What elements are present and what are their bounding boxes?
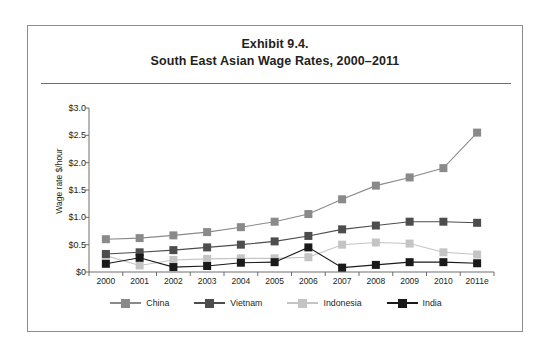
- x-axis-tick-label: 2003: [198, 276, 217, 286]
- x-axis-tick-label: 2004: [231, 276, 250, 286]
- chart-series: [102, 129, 481, 272]
- x-axis-tick-label: 2005: [265, 276, 284, 286]
- x-axis-tick-label: 2009: [400, 276, 419, 286]
- x-axis-tick-label: 2006: [299, 276, 318, 286]
- series-vietnam: [102, 218, 481, 258]
- legend-swatch-icon: [298, 299, 307, 308]
- legend-label: China: [146, 298, 169, 308]
- series-china: [102, 129, 481, 244]
- legend-label: Vietnam: [230, 298, 262, 308]
- legend-item-india[interactable]: India: [387, 298, 442, 308]
- figure-frame: Exhibit 9.4. South East Asian Wage Rates…: [27, 25, 523, 332]
- legend-line-icon: [214, 302, 225, 303]
- legend-swatch-icon: [398, 299, 407, 308]
- chart-axes: [85, 108, 494, 276]
- legend-item-indonesia[interactable]: Indonesia: [287, 298, 361, 308]
- series-indonesia: [102, 238, 481, 269]
- legend-line-icon: [110, 302, 121, 303]
- x-axis-tick-label: 2008: [366, 276, 385, 286]
- legend-line-icon: [130, 302, 141, 303]
- legend-line-icon: [387, 302, 398, 303]
- chart-legend: ChinaVietnamIndonesiaIndia: [28, 298, 524, 308]
- legend-line-icon: [307, 302, 318, 303]
- x-axis-tick-label: 2001: [130, 276, 149, 286]
- x-axis-tick-label: 2010: [434, 276, 453, 286]
- legend-line-icon: [287, 302, 298, 303]
- x-axis-tick-labels: 2000200120022003200420052006200720082009…: [28, 276, 524, 292]
- chart-plot-area: Wage rate $/hour $0$0.5$1.0$1.5$2.0$2.5$…: [28, 26, 524, 333]
- legend-item-china[interactable]: China: [110, 298, 169, 308]
- x-axis-tick-label: 2011e: [466, 276, 489, 286]
- x-axis-tick-label: 2000: [96, 276, 115, 286]
- legend-swatch-icon: [121, 299, 130, 308]
- legend-label: India: [423, 298, 442, 308]
- x-axis-tick-label: 2007: [333, 276, 352, 286]
- legend-item-vietnam[interactable]: Vietnam: [194, 298, 262, 308]
- legend-swatch-icon: [205, 299, 214, 308]
- legend-line-icon: [194, 302, 205, 303]
- x-axis-tick-label: 2002: [164, 276, 183, 286]
- legend-label: Indonesia: [323, 298, 361, 308]
- legend-line-icon: [407, 302, 418, 303]
